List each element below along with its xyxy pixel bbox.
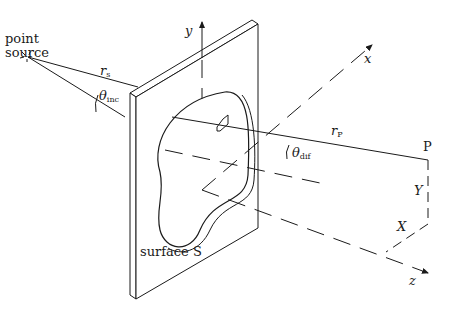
- x-offset-line: [386, 224, 428, 252]
- ray-rs-lower: [28, 57, 125, 117]
- diagram-svg: [0, 0, 450, 323]
- theta-inc-arc: [95, 95, 98, 112]
- surface-label: surface S: [140, 245, 202, 258]
- theta-dif-sub: dif: [300, 152, 311, 161]
- rp-sub: P: [337, 130, 342, 139]
- ray-rs-upper: [28, 57, 138, 87]
- theta-inc-sub: inc: [107, 95, 119, 104]
- theta-dif-arc: [286, 145, 289, 159]
- rp-label: rP: [331, 124, 343, 139]
- point-source-label-1: point: [5, 32, 39, 45]
- point-p-label: P: [423, 140, 432, 153]
- y-axis-label: y: [185, 24, 192, 37]
- y-offset-label: Y: [414, 184, 423, 197]
- rs-sub: s: [106, 70, 110, 79]
- z-axis-label: z: [409, 274, 416, 287]
- theta-dif-label: θdif: [292, 146, 310, 161]
- x-offset-label: X: [397, 220, 406, 233]
- theta-inc-label: θinc: [99, 89, 119, 104]
- diagram-canvas: point source rs θinc y x z rP θdif P Y X…: [0, 0, 450, 323]
- theta-dif-symbol: θ: [292, 145, 300, 160]
- point-source-label-2: source: [5, 46, 49, 59]
- theta-inc-symbol: θ: [99, 88, 107, 103]
- x-axis-label: x: [364, 52, 371, 65]
- rs-label: rs: [100, 64, 110, 79]
